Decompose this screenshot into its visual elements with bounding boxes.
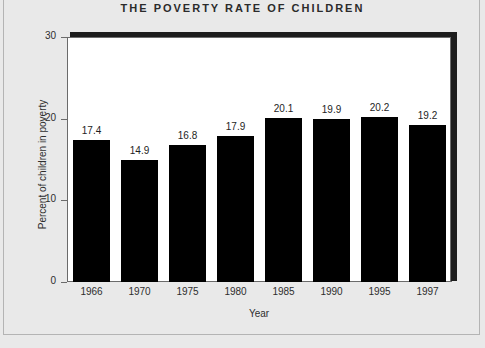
plot-frame-shadow-right: [451, 32, 457, 281]
bar[interactable]: [217, 136, 254, 282]
y-tick-mark: [61, 37, 67, 38]
bar-value-label: 20.2: [355, 102, 404, 113]
y-tick-label: 0: [0, 275, 56, 286]
y-tick-mark: [61, 200, 67, 201]
x-tick-label: 1975: [163, 286, 212, 297]
chart-title: THE POVERTY RATE OF CHILDREN: [0, 2, 485, 14]
x-axis-title: Year: [67, 308, 451, 319]
x-tick-label: 1997: [403, 286, 452, 297]
x-tick-label: 1985: [259, 286, 308, 297]
bar-value-label: 14.9: [115, 145, 164, 156]
y-axis-title: Percent of children in poverty: [37, 55, 48, 275]
bar[interactable]: [361, 117, 398, 282]
bar-value-label: 20.1: [259, 103, 308, 114]
y-tick-label: 20: [0, 112, 56, 123]
x-tick-label: 1995: [355, 286, 404, 297]
bar-value-label: 16.8: [163, 130, 212, 141]
y-tick-label: 10: [0, 193, 56, 204]
bar-value-label: 17.9: [211, 121, 260, 132]
x-tick-label: 1990: [307, 286, 356, 297]
y-tick-mark: [61, 119, 67, 120]
bar[interactable]: [73, 140, 110, 282]
bar-value-label: 17.4: [67, 125, 116, 136]
bar-value-label: 19.9: [307, 104, 356, 115]
y-axis-line: [67, 37, 68, 282]
bar[interactable]: [265, 118, 302, 282]
y-tick-mark: [61, 282, 67, 283]
x-tick-label: 1980: [211, 286, 260, 297]
bar[interactable]: [169, 145, 206, 282]
bar[interactable]: [313, 119, 350, 282]
y-tick-label: 30: [0, 30, 56, 41]
x-tick-label: 1970: [115, 286, 164, 297]
bar[interactable]: [409, 125, 446, 282]
bar-value-label: 19.2: [403, 110, 452, 121]
bar[interactable]: [121, 160, 158, 282]
x-tick-label: 1966: [67, 286, 116, 297]
